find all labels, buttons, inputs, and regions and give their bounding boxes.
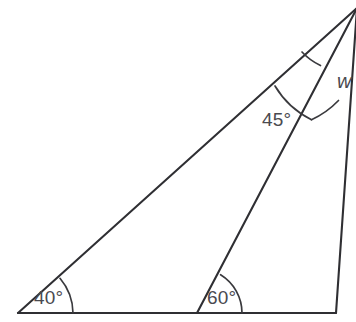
angle-label-w: w [337,71,352,91]
angle-label-40: 40° [34,288,63,307]
middle-ray-segment [197,8,356,313]
geometry-diagram: 40° 60° 45° w [0,0,356,322]
left-ray-segment [18,8,356,313]
angle-label-60: 60° [207,288,236,307]
right-ray-segment [336,8,356,313]
angle-label-45: 45° [262,110,291,129]
angle-w-arc-inner [302,52,321,66]
angle-w-arc-outer [312,101,339,120]
geometry-canvas [0,0,356,322]
